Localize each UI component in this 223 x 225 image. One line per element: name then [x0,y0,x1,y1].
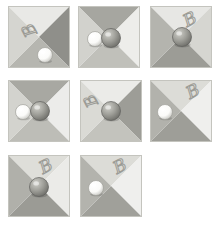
sphere-specular-highlight [34,105,40,109]
stimulus-grid: BBBBBB [0,0,223,225]
stimulus-tile-8: B [80,155,150,225]
sphere-white [38,48,53,63]
stimulus-tile-5: B [80,80,150,150]
sphere-specular-highlight [33,181,39,185]
sphere-specular-highlight [161,108,166,111]
sphere-specular-highlight [41,51,46,54]
sphere-specular-highlight [91,35,96,38]
sphere-white [16,105,31,120]
stimulus-tile-2 [78,6,148,76]
sphere-specular-highlight [176,31,182,35]
sphere-gray [31,102,50,121]
sphere-specular-highlight [19,108,24,111]
sphere-gray [102,29,121,48]
sphere-specular-highlight [105,32,111,36]
sphere-white [88,32,103,47]
sphere-white [89,181,104,196]
stimulus-tile-4 [8,80,78,150]
sphere-gray [173,28,192,47]
sphere-gray [102,102,121,121]
stimulus-tile-3: B [150,6,220,76]
stimulus-tile-1: B [8,6,78,76]
sphere-specular-highlight [105,105,111,109]
sphere-gray [30,178,49,197]
stimulus-tile-6: B [150,80,220,150]
stimulus-tile-7: B [8,155,78,225]
sphere-white [158,105,173,120]
sphere-specular-highlight [92,184,97,187]
